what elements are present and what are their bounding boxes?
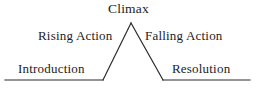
plot-diagram: Climax Rising Action Falling Action Intr… [0, 0, 257, 93]
label-rising-action: Rising Action [38, 29, 112, 42]
label-resolution: Resolution [172, 62, 230, 75]
label-falling-action: Falling Action [145, 29, 223, 42]
label-introduction: Introduction [18, 62, 85, 75]
label-climax: Climax [0, 2, 257, 16]
